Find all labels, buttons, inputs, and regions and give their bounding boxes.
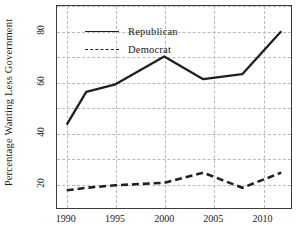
x-axis-tick bbox=[116, 208, 117, 209]
y-axis-tick-label: 40 bbox=[36, 127, 46, 137]
y-axis-tick bbox=[56, 134, 57, 135]
y-axis-tick-label: 20 bbox=[36, 178, 46, 188]
y-axis-tick bbox=[56, 32, 57, 33]
x-axis-tick-label: 1990 bbox=[56, 213, 76, 224]
plot-area: Republican Democrat bbox=[56, 5, 292, 209]
x-axis-tick bbox=[67, 208, 68, 209]
series-line-democrat bbox=[67, 173, 282, 191]
y-axis-title-text: Percentage Wanting Less Government bbox=[4, 18, 15, 186]
figure: Percentage Wanting Less Government Repub… bbox=[0, 0, 300, 245]
legend-item-republican: Republican bbox=[85, 26, 178, 37]
x-axis-tick bbox=[165, 208, 166, 209]
legend-label-republican: Republican bbox=[128, 26, 178, 37]
y-axis-tick bbox=[56, 83, 57, 84]
x-axis-tick-label: 2000 bbox=[154, 213, 174, 224]
y-axis-tick-label: 80 bbox=[36, 25, 46, 35]
x-axis-tick bbox=[214, 208, 215, 209]
legend: Republican Democrat bbox=[85, 26, 178, 55]
legend-swatch-solid-line bbox=[85, 31, 119, 32]
x-axis-tick-label: 2005 bbox=[203, 213, 223, 224]
x-axis-tick-label: 2010 bbox=[253, 213, 273, 224]
x-axis-tick bbox=[264, 208, 265, 209]
y-axis-title: Percentage Wanting Less Government bbox=[2, 0, 16, 204]
legend-label-democrat: Democrat bbox=[128, 44, 171, 55]
y-axis-tick bbox=[56, 185, 57, 186]
legend-swatch-dashed-line bbox=[85, 49, 119, 50]
x-axis-tick-label: 1995 bbox=[105, 213, 125, 224]
y-axis-tick-label: 60 bbox=[36, 76, 46, 86]
legend-item-democrat: Democrat bbox=[85, 44, 178, 55]
